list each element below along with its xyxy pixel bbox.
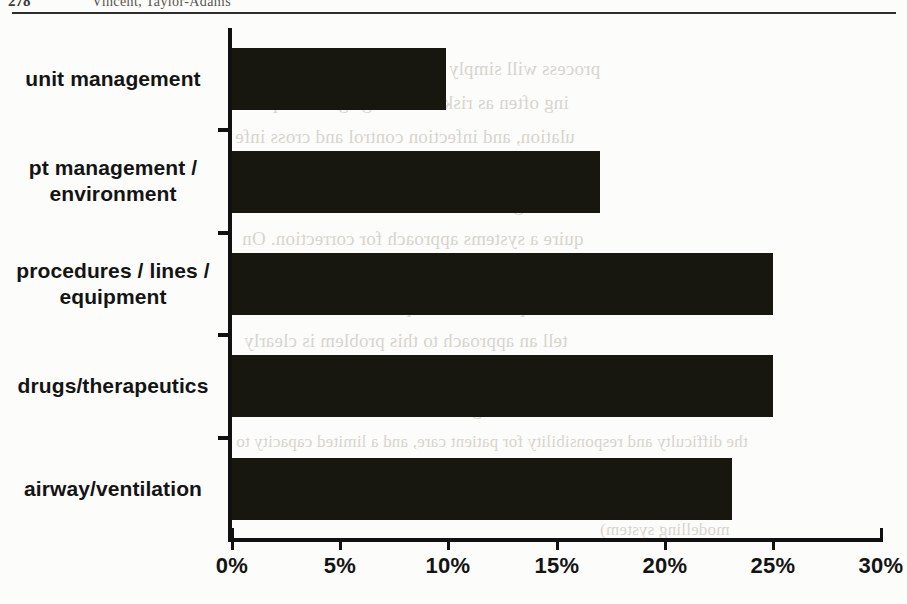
bar <box>232 151 600 213</box>
y-axis-category-label: airway/ventilation <box>2 438 224 540</box>
x-axis-tick-label: 20% <box>643 553 688 579</box>
x-axis-tick <box>231 528 234 550</box>
y-axis-category-label: drugs/therapeutics <box>2 335 224 437</box>
x-axis-tick-label: 25% <box>751 553 796 579</box>
x-axis-tick-label: 10% <box>426 553 471 579</box>
y-axis-label-text: airway/ventilation <box>24 476 202 502</box>
y-axis-category-label: unit management <box>2 28 224 130</box>
y-axis-label-text: drugs/therapeutics <box>18 373 209 399</box>
x-axis-tick <box>556 538 559 550</box>
x-axis-tick <box>339 538 342 550</box>
bar <box>232 253 773 315</box>
x-axis-tick <box>772 538 775 550</box>
x-axis-tick <box>664 538 667 550</box>
x-axis-tick-label: 0% <box>216 553 248 579</box>
y-axis-label-text: procedures / lines / equipment <box>2 258 224 310</box>
x-axis-tick-label: 5% <box>324 553 356 579</box>
y-axis-label-text: unit management <box>25 66 200 92</box>
x-axis-line <box>228 538 881 542</box>
y-axis-tick <box>218 231 229 235</box>
y-axis-tick <box>218 333 229 337</box>
y-axis-tick <box>218 128 229 132</box>
scanned-page: process will simply be irritating or sus… <box>0 0 907 604</box>
x-axis-tick-label: 30% <box>859 553 904 579</box>
bar <box>232 355 773 417</box>
y-axis-category-labels: unit managementpt management / environme… <box>0 0 224 604</box>
x-axis-tick <box>880 528 883 542</box>
y-axis-category-label: procedures / lines / equipment <box>2 233 224 335</box>
x-axis-tick <box>447 538 450 550</box>
y-axis-label-text: pt management / environment <box>2 155 224 207</box>
bar <box>232 458 732 520</box>
y-axis-tick <box>218 436 229 440</box>
horizontal-bar-chart: unit managementpt management / environme… <box>0 0 907 604</box>
y-axis-category-label: pt management / environment <box>2 130 224 232</box>
bar <box>232 48 446 110</box>
x-axis-tick-label: 15% <box>535 553 580 579</box>
